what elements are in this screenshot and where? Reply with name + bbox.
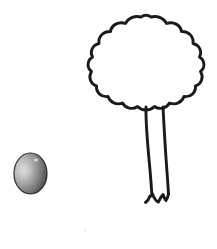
ball-object [14,153,47,194]
tree-roots [146,194,169,203]
tree-canopy-shape [88,16,204,111]
illustration-canvas: ·· ·· [0,0,217,249]
ball-sheen [15,154,47,194]
tree-object [88,16,204,203]
ball-specular-highlight [34,158,38,161]
tree-trunk-left [146,107,152,196]
tree-trunk-right [163,107,169,194]
illustration-svg [0,0,217,249]
